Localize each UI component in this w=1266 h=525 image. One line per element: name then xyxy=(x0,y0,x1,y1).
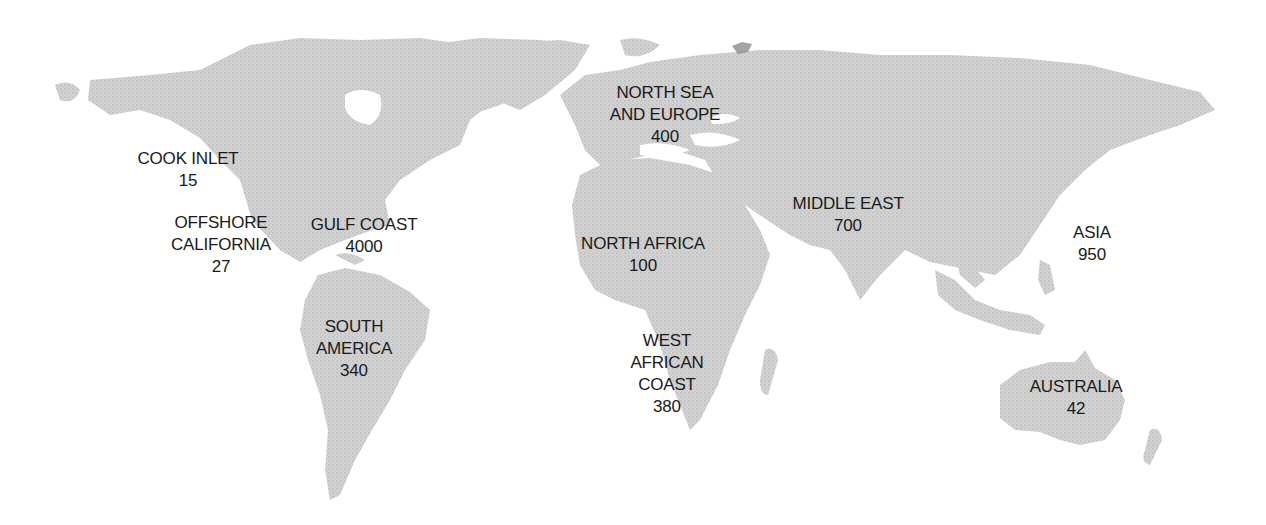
region-name: NORTH AFRICA xyxy=(581,233,705,255)
region-name: OFFSHORE xyxy=(171,212,271,234)
region-label-west-african-coast: WESTAFRICANCOAST380 xyxy=(630,330,703,418)
region-label-south-america: SOUTHAMERICA340 xyxy=(316,316,392,382)
region-name: GULF COAST xyxy=(311,214,418,236)
region-value: 340 xyxy=(316,360,392,382)
region-name: COAST xyxy=(630,374,703,396)
region-label-australia: AUSTRALIA42 xyxy=(1030,376,1123,420)
region-label-north-sea-europe: NORTH SEAAND EUROPE400 xyxy=(610,82,720,148)
world-map: COOK INLET15OFFSHORECALIFORNIA27GULF COA… xyxy=(0,0,1266,525)
region-label-asia: ASIA950 xyxy=(1073,222,1111,266)
region-name: AMERICA xyxy=(316,338,392,360)
region-value: 700 xyxy=(792,215,903,237)
region-name: SOUTH xyxy=(316,316,392,338)
region-name: WEST xyxy=(630,330,703,352)
region-value: 42 xyxy=(1030,398,1123,420)
region-name: CALIFORNIA xyxy=(171,234,271,256)
region-value: 400 xyxy=(610,126,720,148)
region-name: AFRICAN xyxy=(630,352,703,374)
region-name: NORTH SEA xyxy=(610,82,720,104)
region-label-cook-inlet: COOK INLET15 xyxy=(138,148,239,192)
south-america-shape xyxy=(300,268,430,500)
region-value: 15 xyxy=(138,170,239,192)
region-name: AUSTRALIA xyxy=(1030,376,1123,398)
region-name: COOK INLET xyxy=(138,148,239,170)
region-name: MIDDLE EAST xyxy=(792,193,903,215)
region-label-middle-east: MIDDLE EAST700 xyxy=(792,193,903,237)
region-label-gulf-coast: GULF COAST4000 xyxy=(311,214,418,258)
region-name: AND EUROPE xyxy=(610,104,720,126)
region-value: 380 xyxy=(630,396,703,418)
region-value: 100 xyxy=(581,255,705,277)
region-label-north-africa: NORTH AFRICA100 xyxy=(581,233,705,277)
region-value: 27 xyxy=(171,256,271,278)
region-value: 4000 xyxy=(311,236,418,258)
region-value: 950 xyxy=(1073,244,1111,266)
region-label-offshore-california: OFFSHORECALIFORNIA27 xyxy=(171,212,271,278)
region-name: ASIA xyxy=(1073,222,1111,244)
